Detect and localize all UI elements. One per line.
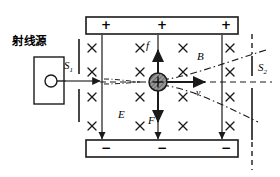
force-F-label: F: [148, 115, 155, 126]
charged-particle: [149, 73, 167, 91]
slit-s1-label: S1: [64, 60, 73, 74]
particle-trajectory-lower: [162, 85, 258, 122]
slit-s1-subscript: 1: [70, 66, 74, 74]
plate-top-sign-2: +: [157, 19, 167, 31]
particle-trajectory-upper: [162, 50, 266, 80]
magnetic-field-label: B: [197, 51, 204, 62]
plate-top-sign-1: +: [101, 19, 111, 31]
plate-bottom-sign-3: −: [221, 142, 231, 154]
slit-s2-subscript: 2: [264, 68, 268, 76]
electric-field-label: E: [118, 109, 125, 120]
physics-diagram-canvas: 射线源 S1 S2 B E f F v + + + − − −: [0, 0, 280, 177]
radiation-source-box: [34, 57, 66, 104]
diagram-vector-layer: [0, 0, 280, 177]
slit-s2-label: S2: [258, 62, 267, 76]
plate-bottom-sign-1: −: [101, 142, 111, 154]
plate-bottom-sign-2: −: [157, 142, 167, 154]
force-f-label: f: [146, 40, 149, 51]
source-label: 射线源: [12, 36, 47, 48]
velocity-label: v: [196, 88, 200, 98]
plate-top-sign-3: +: [221, 19, 231, 31]
